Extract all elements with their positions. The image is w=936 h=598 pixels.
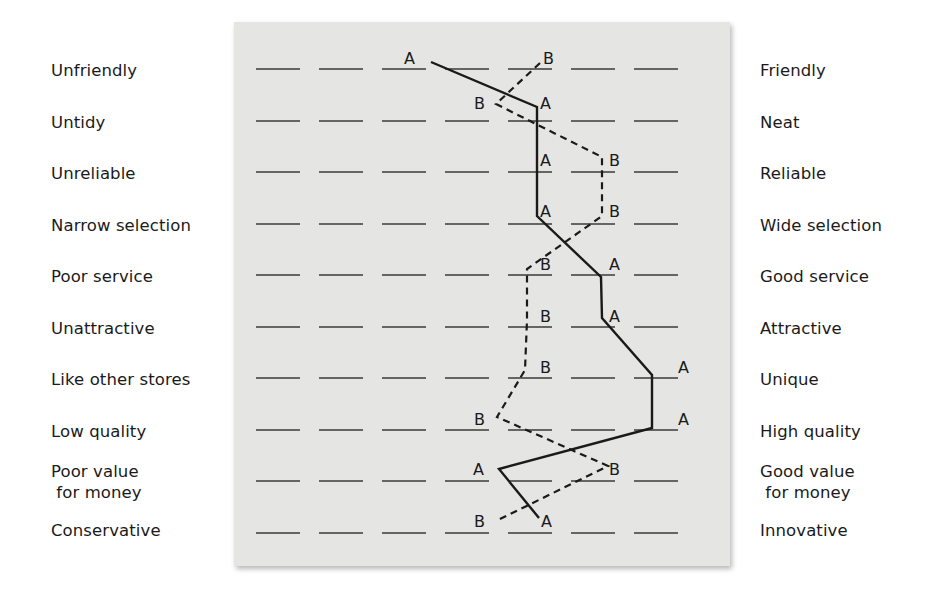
series-a-point-label: A [541, 512, 552, 531]
series-b-point-label: B [609, 460, 620, 479]
series-a-point-label: A [609, 255, 620, 274]
series-b-point-label: B [543, 49, 554, 68]
series-b-point-label: B [474, 410, 485, 429]
series-a-point-label: A [473, 460, 484, 479]
series-b-point-label: B [474, 512, 485, 531]
series-b-point-label: B [609, 202, 620, 221]
series-b-line [496, 63, 608, 521]
series-b-point-label: B [540, 255, 551, 274]
series-a-line [431, 62, 652, 518]
series-a-point-label: A [540, 94, 551, 113]
semantic-differential-plot: AAAAAAAAAABBBBBBBBBB [0, 0, 936, 598]
series-b-point-label: B [540, 307, 551, 326]
series-a-point-label: A [678, 410, 689, 429]
series-a-point-label: A [678, 358, 689, 377]
series-a-point-label: A [540, 202, 551, 221]
series-a-point-label: A [540, 151, 551, 170]
series-a-point-label: A [404, 49, 415, 68]
series-b-point-label: B [474, 94, 485, 113]
series-a-point-label: A [609, 307, 620, 326]
series-b-point-label: B [609, 151, 620, 170]
series-b-point-label: B [540, 358, 551, 377]
